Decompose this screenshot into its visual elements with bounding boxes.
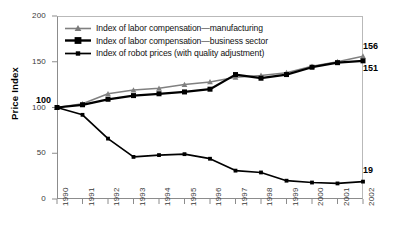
series-robot-prices: [55, 106, 365, 186]
legend-item-robot-prices: Index of robot prices (with quality adju…: [64, 47, 268, 60]
annotation-end-manufacturing-156: 156: [363, 41, 378, 51]
chart-legend: Index of labor compensation—manufacturin…: [64, 22, 268, 60]
data-series-layer: [54, 53, 366, 185]
legend-label-robot-prices: Index of robot prices (with quality adju…: [96, 48, 264, 58]
legend-marker-small-square-icon: [64, 48, 92, 59]
legend-marker-square-icon: [64, 35, 92, 46]
annotation-end-business-151: 151: [363, 63, 378, 73]
legend-item-business-sector: Index of labor compensation—business sec…: [64, 35, 268, 48]
legend-label-business-sector: Index of labor compensation—business sec…: [96, 36, 268, 46]
annotation-start-100: 100: [36, 95, 51, 105]
legend-item-manufacturing: Index of labor compensation—manufacturin…: [64, 22, 268, 35]
annotation-end-robot-19: 19: [363, 165, 373, 175]
chart-figure: Price Index 200150100500 199019911992199…: [0, 0, 395, 247]
legend-label-manufacturing: Index of labor compensation—manufacturin…: [96, 23, 263, 33]
legend-marker-triangle-icon: [64, 23, 92, 34]
